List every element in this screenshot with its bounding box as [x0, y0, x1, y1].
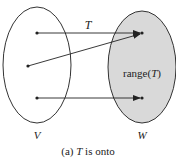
domain-set-v: [3, 7, 71, 123]
caption: (a) T is onto: [61, 145, 115, 158]
domain-set-label-v: V: [34, 129, 42, 141]
codomain-set-label-w: W: [137, 129, 147, 141]
mapping-label-t: T: [85, 18, 93, 32]
range-label: range(T): [123, 67, 161, 80]
codomain-point-2: [140, 96, 143, 99]
onto-mapping-diagram: T range(T) V W (a) T is onto: [0, 0, 176, 158]
codomain-point-1: [140, 31, 143, 34]
